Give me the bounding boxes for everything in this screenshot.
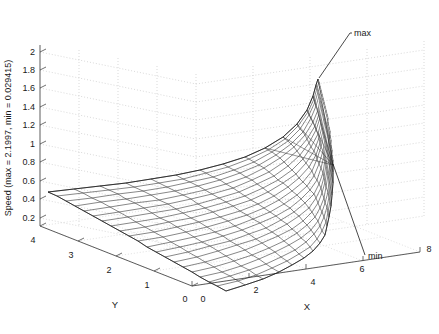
max-leader-line <box>319 33 350 78</box>
y-axis-ticks <box>40 223 198 286</box>
mesh-left-edge <box>48 192 226 291</box>
z-tick-label: 0.2 <box>22 213 35 223</box>
z-tick-label: 1 <box>30 139 35 149</box>
z-axis-ticks <box>40 49 46 218</box>
surface-plot-figure: 0.2 0.4 0.6 0.8 1 1.2 1.4 1.6 1.8 2 4 3 … <box>0 0 439 334</box>
x-axis-title: X <box>304 301 311 312</box>
z-tick-label: 1.2 <box>22 120 35 130</box>
y-axis-title: Y <box>112 299 119 310</box>
x-axis-ticks <box>192 247 420 286</box>
z-tick-label: 0.6 <box>22 176 35 186</box>
x-tick-label: 8 <box>426 244 431 254</box>
y-tick-label: 4 <box>30 235 35 245</box>
y-tick-labels: 4 3 2 1 0 <box>30 235 187 304</box>
z-tick-label: 1.6 <box>22 83 35 93</box>
y-tick-label: 3 <box>68 250 73 260</box>
mesh-surface-lines-u <box>48 79 333 291</box>
x-tick-label: 0 <box>200 294 205 304</box>
mesh-top-ridge <box>48 79 318 192</box>
plot-canvas: 0.2 0.4 0.6 0.8 1 1.2 1.4 1.6 1.8 2 4 3 … <box>0 0 439 334</box>
z-tick-labels: 0.2 0.4 0.6 0.8 1 1.2 1.4 1.6 1.8 2 <box>22 47 35 223</box>
y-tick-label: 2 <box>106 265 111 275</box>
max-annotation-label: max <box>354 28 372 38</box>
x-tick-label: 6 <box>359 264 364 274</box>
z-tick-label: 2 <box>30 47 35 57</box>
z-tick-label: 1.8 <box>22 65 35 75</box>
min-annotation-label: min <box>368 251 383 261</box>
x-tick-label: 4 <box>310 277 315 287</box>
x-tick-label: 2 <box>253 285 258 295</box>
min-leader-line <box>333 164 365 255</box>
z-tick-label: 0.4 <box>22 194 35 204</box>
y-tick-label: 0 <box>182 294 187 304</box>
z-tick-label: 1.4 <box>22 102 35 112</box>
z-tick-label: 0.8 <box>22 157 35 167</box>
grid-back-left-wall <box>40 50 196 250</box>
z-axis-title: Speed (max = 2.1997, min = 0.029415) <box>3 60 13 217</box>
y-tick-label: 1 <box>144 280 149 290</box>
